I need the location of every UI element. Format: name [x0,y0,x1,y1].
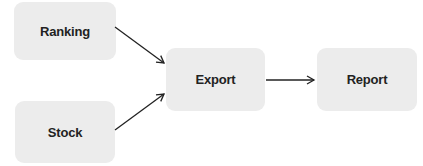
edge-stock-export-arrow [115,94,164,130]
edges-layer [0,0,423,166]
edge-ranking-export-arrow [115,27,164,63]
